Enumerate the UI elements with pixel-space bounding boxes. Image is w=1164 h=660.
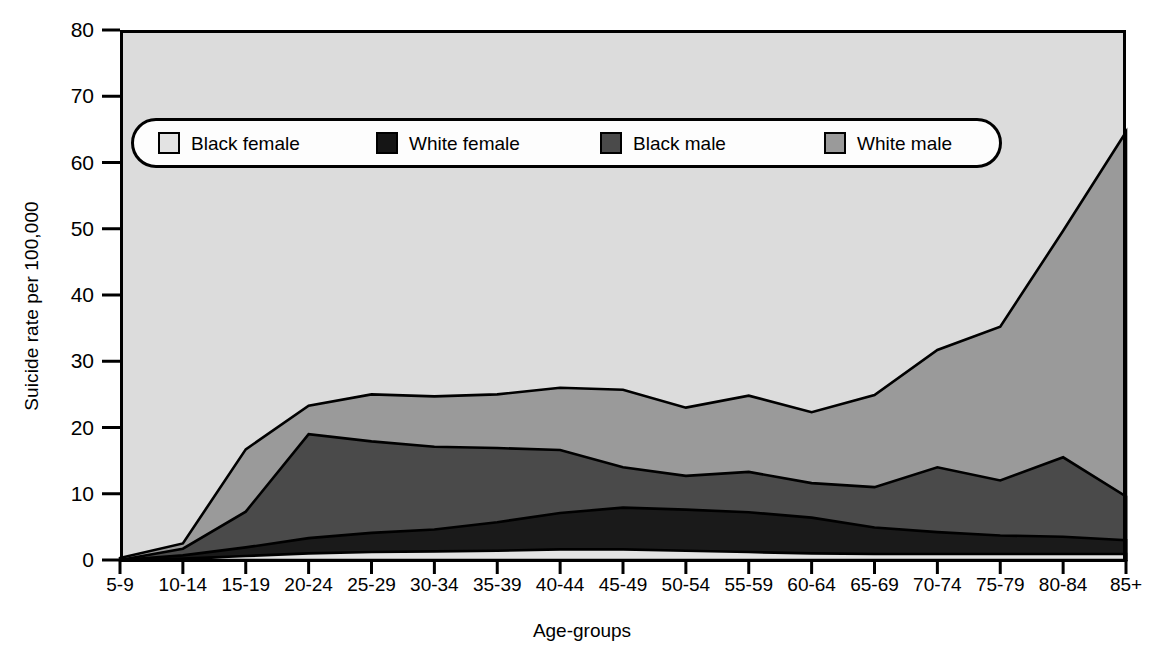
chart-figure: Suicide rate per 100,000 010203040506070… [0, 0, 1164, 660]
legend-item-black-female[interactable]: Black female [158, 132, 300, 154]
x-tick-label: 20-24 [284, 575, 333, 594]
x-tick-label: 75-79 [976, 575, 1025, 594]
x-axis-title: Age-groups [0, 620, 1164, 642]
x-tick-label: 45-49 [599, 575, 648, 594]
x-tick-label: 70-74 [913, 575, 962, 594]
x-tick-label: 55-59 [724, 575, 773, 594]
legend-item-black-male[interactable]: Black male [600, 132, 726, 154]
x-tick-label: 65-69 [850, 575, 899, 594]
legend-label: White female [409, 134, 520, 153]
x-tick-label: 40-44 [536, 575, 585, 594]
x-tick-label: 60-64 [787, 575, 836, 594]
x-tick-label: 25-29 [347, 575, 396, 594]
x-tick-label: 35-39 [473, 575, 522, 594]
x-tick-label: 85+ [1110, 575, 1142, 594]
legend-item-white-female[interactable]: White female [376, 132, 520, 154]
x-tick-label: 50-54 [662, 575, 711, 594]
plot-area [0, 0, 1164, 660]
legend-item-white-male[interactable]: White male [824, 132, 952, 154]
x-tick-label: 15-19 [221, 575, 270, 594]
legend-label: Black male [633, 134, 726, 153]
legend-swatch-icon [158, 132, 180, 154]
x-axis-ticks [120, 560, 1126, 574]
legend-swatch-icon [376, 132, 398, 154]
legend-label: Black female [191, 134, 300, 153]
x-tick-label: 5-9 [106, 575, 133, 594]
x-tick-label: 80-84 [1039, 575, 1088, 594]
legend-swatch-icon [600, 132, 622, 154]
legend-swatch-icon [824, 132, 846, 154]
legend-label: White male [857, 134, 952, 153]
x-tick-label: 30-34 [410, 575, 459, 594]
y-axis-ticks [102, 30, 120, 560]
chart-legend: Black femaleWhite femaleBlack maleWhite … [131, 118, 1002, 168]
x-tick-label: 10-14 [159, 575, 208, 594]
